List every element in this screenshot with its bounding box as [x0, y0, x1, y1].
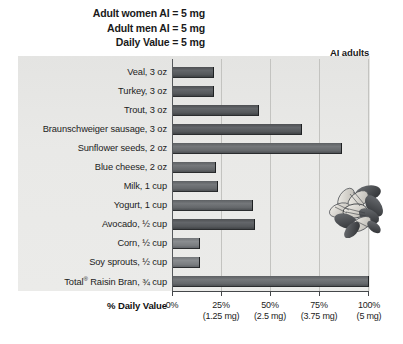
table-row: Turkey, 3 oz	[0, 82, 403, 100]
bar-veal	[173, 67, 214, 78]
x-tick-label-75: 75% (3.75 mg)	[289, 300, 349, 322]
bar-label-sunflower-seeds: Sunflower seeds, 2 oz	[0, 143, 167, 154]
bar-total-raisin-bran	[173, 276, 369, 287]
bar-braunschweiger-sausage	[173, 124, 302, 135]
table-row: Braunschweiger sausage, 3 oz	[0, 120, 403, 138]
bar-label-yogurt: Yogurt, 1 cup	[0, 200, 167, 211]
intake-notes: Adult women AI = 5 mg Adult men AI = 5 m…	[0, 6, 205, 50]
bar-sunflower-seeds	[173, 143, 342, 154]
bar-label-corn: Corn, ½ cup	[0, 238, 167, 249]
x-tick-label-0: 0%	[152, 300, 192, 311]
sunflower-seeds-photo	[328, 180, 390, 238]
bar-avocado	[173, 219, 255, 230]
table-row: Sunflower seeds, 2 oz	[0, 139, 403, 157]
tick-mark-25	[221, 291, 222, 296]
bar-milk	[173, 181, 218, 192]
bar-blue-cheese	[173, 162, 216, 173]
x-axis-title: % Daily Value	[60, 300, 167, 311]
bar-yogurt	[173, 200, 253, 211]
tick-mark-100	[368, 291, 369, 296]
table-row: Trout, 3 oz	[0, 101, 403, 119]
bar-soy-sprouts	[173, 257, 200, 268]
note-daily-value: Daily Value = 5 mg	[0, 35, 205, 50]
table-row: Soy sprouts, ½ cup	[0, 253, 403, 271]
bar-corn	[173, 238, 200, 249]
bar-label-veal: Veal, 3 oz	[0, 67, 167, 78]
note-adult-men-ai: Adult men AI = 5 mg	[0, 21, 205, 36]
table-row: Veal, 3 oz	[0, 63, 403, 81]
bar-label-blue-cheese: Blue cheese, 2 oz	[0, 162, 167, 173]
tick-mark-50	[270, 291, 271, 296]
bar-label-trout: Trout, 3 oz	[0, 105, 167, 116]
bar-label-milk: Milk, 1 cup	[0, 181, 167, 192]
bar-trout	[173, 105, 259, 116]
bar-label-avocado: Avocado, ½ cup	[0, 219, 167, 230]
bar-label-soy-sprouts: Soy sprouts, ½ cup	[0, 257, 167, 268]
bar-turkey	[173, 86, 214, 97]
x-tick-label-100: 100% (5 mg)	[342, 300, 396, 322]
bar-label-braunschweiger-sausage: Braunschweiger sausage, 3 oz	[0, 124, 167, 135]
note-adult-women-ai: Adult women AI = 5 mg	[0, 6, 205, 21]
pantothenic-acid-bar-chart: Adult women AI = 5 mg Adult men AI = 5 m…	[0, 0, 403, 344]
tick-mark-0	[172, 291, 173, 296]
bar-label-total-raisin-bran: Total® Raisin Bran, ¾ cup	[0, 274, 167, 288]
tick-mark-75	[319, 291, 320, 296]
table-row: Blue cheese, 2 oz	[0, 158, 403, 176]
table-row: Total® Raisin Bran, ¾ cup	[0, 272, 403, 290]
bar-label-turkey: Turkey, 3 oz	[0, 86, 167, 97]
